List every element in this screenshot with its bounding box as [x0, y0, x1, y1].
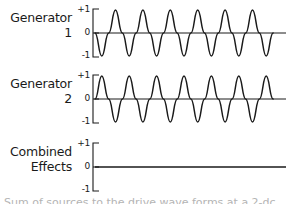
- plot-generator-1: +1 0 -1: [74, 2, 292, 64]
- panel-label-line-1: Generator: [0, 76, 72, 91]
- waveform-svg-combined-effects: [74, 136, 292, 198]
- panel-label-line-2: 1: [0, 25, 72, 40]
- y-tick-label-zero: 0: [74, 28, 90, 37]
- panel-label-generator-1: Generator 1: [0, 10, 72, 40]
- interference-figure: Generator 1 +1 0 -1 Generator 2 +1: [0, 0, 292, 204]
- panel-generator-2: Generator 2 +1 0 -1: [0, 68, 292, 130]
- y-tick-label-plus-one: +1: [74, 139, 90, 148]
- panel-label-line-1: Generator: [0, 10, 72, 25]
- panel-generator-1: Generator 1 +1 0 -1: [0, 2, 292, 64]
- y-tick-label-minus-one: -1: [74, 117, 90, 126]
- plot-combined-effects: +1 0 -1: [74, 136, 292, 198]
- y-tick-label-minus-one: -1: [74, 185, 90, 194]
- panel-label-generator-2: Generator 2: [0, 76, 72, 106]
- panel-label-line-2: Effects: [0, 159, 72, 174]
- plot-generator-2: +1 0 -1: [74, 68, 292, 130]
- panel-label-line-1: Combined: [0, 144, 72, 159]
- caption-strip: Sum of sources to the drive wave forms a…: [0, 196, 292, 204]
- panel-label-combined-effects: Combined Effects: [0, 144, 72, 174]
- waveform-svg-generator-1: [74, 2, 292, 64]
- y-tick-label-zero: 0: [74, 94, 90, 103]
- panel-label-line-2: 2: [0, 91, 72, 106]
- panel-combined-effects: Combined Effects +1 0 -1: [0, 136, 292, 198]
- y-tick-label-plus-one: +1: [74, 71, 90, 80]
- y-tick-label-plus-one: +1: [74, 5, 90, 14]
- figure-caption: Sum of sources to the drive wave forms a…: [4, 196, 276, 204]
- y-tick-label-zero: 0: [74, 162, 90, 171]
- waveform-svg-generator-2: [74, 68, 292, 130]
- y-tick-label-minus-one: -1: [74, 51, 90, 60]
